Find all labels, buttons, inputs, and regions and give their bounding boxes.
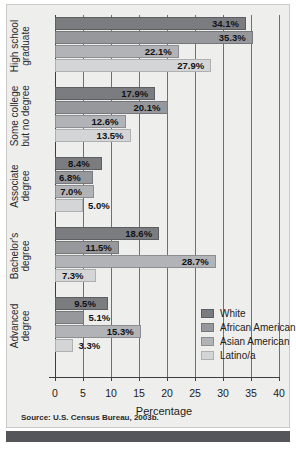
bar-value-label: 20.1% bbox=[134, 101, 161, 114]
bar-value-label: 11.5% bbox=[85, 241, 111, 254]
legend-item-2: Asian American bbox=[201, 335, 296, 348]
bar-4-3 bbox=[55, 339, 73, 352]
legend-item-1: African American bbox=[201, 321, 296, 334]
bar-row bbox=[55, 199, 83, 212]
x-tick-label-40: 40 bbox=[267, 387, 291, 399]
legend-label: African American bbox=[220, 321, 296, 334]
bar-value-label: 5.1% bbox=[89, 311, 111, 324]
legend-swatch-icon bbox=[201, 337, 214, 346]
chart-figure: 34.1%35.3%22.1%27.9%17.9%20.1%12.6%13.5%… bbox=[6, 4, 290, 428]
legend-swatch-icon bbox=[201, 323, 214, 332]
bar-4-1 bbox=[55, 311, 84, 324]
x-tick-label-15: 15 bbox=[127, 387, 151, 399]
legend-item-0: White bbox=[201, 307, 296, 320]
legend-label: Asian American bbox=[220, 335, 289, 348]
bar-row bbox=[55, 339, 73, 352]
bar-value-label: 34.1% bbox=[212, 17, 239, 30]
bar-value-label: 9.5% bbox=[74, 297, 96, 310]
x-tick-label-10: 10 bbox=[99, 387, 123, 399]
tick-30 bbox=[223, 377, 224, 381]
x-tick-label-25: 25 bbox=[183, 387, 207, 399]
tick-10 bbox=[111, 377, 112, 381]
x-tick-label-30: 30 bbox=[211, 387, 235, 399]
x-tick-label-0: 0 bbox=[43, 387, 67, 399]
x-tick-label-35: 35 bbox=[239, 387, 263, 399]
tick-25 bbox=[195, 377, 196, 381]
bar-value-label: 28.7% bbox=[182, 255, 209, 268]
x-tick-label-5: 5 bbox=[71, 387, 95, 399]
legend-label: Latino/a bbox=[220, 349, 256, 362]
tick-40 bbox=[279, 377, 280, 381]
bar-value-label: 7.3% bbox=[62, 269, 84, 282]
bar-2-3 bbox=[55, 199, 83, 212]
bar-value-label: 35.3% bbox=[219, 31, 246, 44]
bar-value-label: 22.1% bbox=[145, 45, 172, 58]
bar-value-label: 13.5% bbox=[97, 129, 124, 142]
bar-value-label: 17.9% bbox=[121, 87, 148, 100]
tick-20 bbox=[167, 377, 168, 381]
legend-label: White bbox=[220, 307, 246, 320]
bar-value-label: 15.3% bbox=[107, 325, 134, 338]
bar-value-label: 6.8% bbox=[59, 171, 81, 184]
tick-0 bbox=[55, 377, 56, 381]
legend-swatch-icon bbox=[201, 351, 214, 360]
legend-item-3: Latino/a bbox=[201, 349, 296, 362]
chart-legend: WhiteAfrican AmericanAsian AmericanLatin… bbox=[201, 307, 296, 363]
footer-bar bbox=[6, 431, 290, 442]
source-note: Source: U.S. Census Bureau, 2003b. bbox=[21, 413, 159, 422]
bar-value-label: 3.3% bbox=[78, 339, 100, 352]
plot-area: 34.1%35.3%22.1%27.9%17.9%20.1%12.6%13.5%… bbox=[49, 15, 279, 377]
bar-row bbox=[55, 311, 84, 324]
bar-value-label: 5.0% bbox=[88, 199, 110, 212]
tick-15 bbox=[139, 377, 140, 381]
bar-value-label: 7.0% bbox=[60, 185, 82, 198]
tick-35 bbox=[251, 377, 252, 381]
x-tick-label-20: 20 bbox=[155, 387, 179, 399]
bar-value-label: 18.6% bbox=[125, 227, 152, 240]
bar-value-label: 8.4% bbox=[68, 157, 90, 170]
tick-5 bbox=[83, 377, 84, 381]
legend-swatch-icon bbox=[201, 309, 214, 318]
bar-value-label: 27.9% bbox=[177, 59, 204, 72]
bar-value-label: 12.6% bbox=[92, 115, 119, 128]
category-label-4: Advanceddegree bbox=[9, 278, 31, 374]
